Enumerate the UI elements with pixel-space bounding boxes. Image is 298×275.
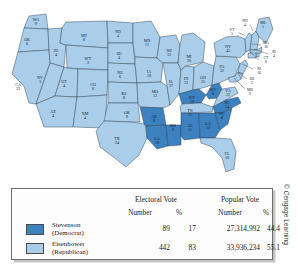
state-shape-FL — [200, 138, 236, 172]
state-votes-VA: 12 — [226, 92, 230, 97]
state-label-NJ: NJ16 — [257, 67, 262, 75]
legend-candidate-party-1: (Republican) — [52, 248, 88, 256]
state-votes-IL: 27 — [169, 83, 173, 88]
legend-cell-electoral-pct-0: 17 — [170, 224, 196, 233]
state-votes-ME: 5 — [262, 25, 264, 29]
legend-cell-popular-number-0: 27,314,992 — [202, 224, 260, 233]
leader-line-NH — [250, 25, 253, 32]
state-shape-OK — [104, 103, 140, 122]
state-votes-TX: 24 — [115, 140, 119, 145]
legend-sub-header-3: % — [252, 209, 280, 217]
state-votes-NY: 45 — [226, 48, 230, 53]
state-votes-TN: 11 — [188, 112, 192, 117]
state-label-CT: CT8 — [264, 56, 269, 64]
state-votes-CT: 8 — [265, 60, 267, 64]
election-map-figure: WA9OR6CA32ID4NV3MT8WY3UT4AZ4CO6NM4ND4SD4… — [0, 0, 298, 275]
state-votes-NV: 3 — [39, 79, 41, 84]
us-electoral-map[interactable]: WA9OR6CA32ID4NV3MT8WY3UT4AZ4CO6NM4ND4SD4… — [0, 0, 283, 182]
state-shape-RI — [256, 53, 259, 57]
state-votes-MD: 9 — [249, 92, 251, 96]
state-label-VT: VT3 — [230, 28, 236, 36]
map-state-shapes — [12, 14, 273, 172]
legend-grid: Electoral VotePopular VoteNumber%Number%… — [12, 189, 272, 259]
state-votes-OR: 6 — [26, 41, 28, 46]
results-legend-table: Electoral VotePopular VoteNumber%Number%… — [11, 188, 273, 260]
state-label-IL: IL27 — [169, 79, 173, 88]
state-votes-SC: 8 — [221, 115, 223, 120]
state-votes-OK: 8 — [126, 114, 128, 119]
state-label-PA: PA32 — [220, 64, 225, 73]
state-votes-GA: 12 — [206, 125, 210, 130]
state-label-LA: LA10 — [154, 136, 160, 145]
state-votes-KS: 8 — [123, 95, 125, 100]
state-votes-PA: 32 — [220, 68, 224, 73]
state-votes-MT: 8 — [83, 37, 85, 42]
state-label-NH: NH4 — [242, 19, 248, 27]
state-votes-LA: 10 — [155, 140, 159, 145]
legend-swatch-republican[interactable] — [26, 243, 44, 254]
state-votes-WY: 3 — [87, 60, 89, 65]
legend-sub-header-0: Number — [114, 209, 166, 217]
state-shape-TN — [180, 103, 213, 113]
legend-group-header-popular-vote: Popular Vote — [200, 195, 280, 204]
legend-row-label-1: Eisenhower(Republican) — [52, 240, 88, 256]
state-label-MD: MD9 — [247, 88, 253, 96]
state-votes-ID: 4 — [55, 52, 57, 57]
state-label-TX: TX24 — [114, 136, 120, 145]
state-votes-WI: 12 — [167, 52, 171, 57]
state-shape-TX — [96, 121, 147, 167]
state-votes-AR: 8 — [153, 118, 155, 123]
state-label-TN: TN11 — [187, 108, 193, 117]
state-votes-NH: 4 — [244, 23, 246, 27]
state-votes-NE: 6 — [119, 74, 121, 79]
state-votes-DE: 3 — [251, 81, 253, 85]
state-label-IA: IA10 — [147, 69, 151, 78]
legend-swatch-democrat[interactable] — [26, 224, 44, 235]
legend-candidate-name-0: Stevenson — [52, 221, 84, 229]
state-votes-NJ: 16 — [257, 71, 261, 75]
state-votes-MS: 8 — [172, 127, 174, 132]
state-votes-IA: 10 — [147, 73, 151, 78]
state-votes-WA: 9 — [35, 21, 37, 26]
state-votes-AZ: 4 — [52, 113, 54, 118]
state-votes-WV: 8 — [212, 91, 214, 96]
state-shape-NJ — [238, 60, 248, 74]
copyright-text: © Cengage Learning — [283, 184, 290, 245]
copyright-notice: © Cengage Learning — [281, 182, 293, 268]
legend-cell-popular-number-1: 33,936,234 — [202, 243, 260, 252]
legend-candidate-party-0: (Democrat) — [52, 229, 84, 237]
state-votes-RI: 4 — [273, 54, 275, 58]
state-label-VA: VA12 — [225, 88, 230, 97]
state-shape-NM — [73, 95, 107, 128]
state-label-IN: IN13 — [184, 76, 188, 85]
legend-row-label-0: Stevenson(Democrat) — [52, 221, 84, 237]
state-votes-VT: 3 — [231, 32, 233, 36]
state-label-CA: CA32 — [15, 82, 21, 91]
legend-cell-electoral-number-1: 442 — [124, 243, 170, 252]
state-votes-NC: 14 — [225, 104, 229, 109]
legend-sub-header-1: % — [164, 209, 194, 217]
legend-cell-electoral-pct-1: 83 — [170, 243, 196, 252]
state-votes-MO: 13 — [153, 93, 157, 98]
state-label-DE: DE3 — [250, 77, 256, 85]
leader-line-VT — [239, 33, 247, 37]
state-votes-ND: 4 — [117, 33, 119, 38]
state-votes-MN: 11 — [145, 42, 149, 47]
state-votes-CO: 6 — [92, 86, 94, 91]
legend-cell-electoral-number-0: 89 — [124, 224, 170, 233]
state-votes-CA: 32 — [16, 86, 20, 91]
state-votes-MI: 20 — [187, 58, 191, 63]
state-votes-FL: 10 — [225, 155, 229, 160]
state-label-RI: RI4 — [272, 50, 276, 58]
state-votes-SD: 4 — [118, 55, 120, 60]
state-votes-KY: 10 — [190, 99, 194, 104]
legend-cell-popular-pct-0: 44.4 — [260, 224, 280, 233]
legend-group-header-electoral-vote: Electoral Vote — [116, 195, 196, 204]
state-votes-OH: 25 — [201, 79, 205, 84]
legend-cell-popular-pct-1: 55.1 — [260, 243, 280, 252]
state-votes-NM: 4 — [84, 115, 86, 120]
legend-candidate-name-1: Eisenhower — [52, 240, 88, 248]
state-votes-AL: 11 — [188, 127, 192, 132]
state-votes-MA: 16 — [264, 45, 268, 49]
state-label-MA: MA16 — [263, 41, 269, 49]
